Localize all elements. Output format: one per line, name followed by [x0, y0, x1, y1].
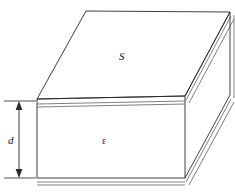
top-face-label-s: S: [119, 51, 125, 62]
figure-drawing: [0, 0, 235, 192]
dielectric-slab-figure: S ε d: [0, 0, 235, 192]
front-face-fill: [37, 103, 185, 178]
arrow-down-icon: [16, 169, 23, 178]
thickness-label-d: d: [8, 135, 14, 146]
arrow-up-icon: [16, 101, 23, 110]
front-face-label-epsilon: ε: [102, 136, 106, 146]
